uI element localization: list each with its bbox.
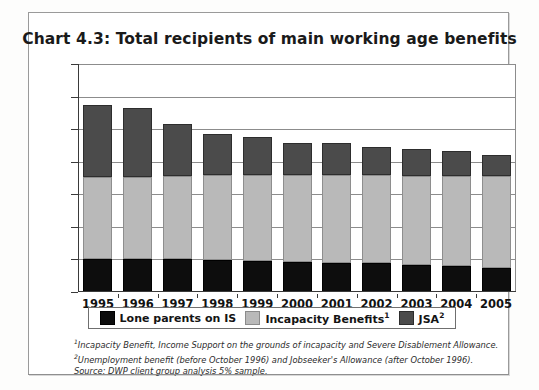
bar-segment-lone bbox=[283, 262, 312, 292]
bar-segment-lone bbox=[163, 259, 192, 292]
bar-column bbox=[442, 151, 471, 292]
bar-segment-lone bbox=[442, 266, 471, 292]
y-axis-line bbox=[78, 64, 79, 292]
footnote-1-text: Incapacity Benefit, Income Support on th… bbox=[78, 340, 498, 350]
chart-page: Chart 4.3: Total recipients of main work… bbox=[0, 0, 539, 390]
bar-segment-jsa bbox=[402, 149, 431, 176]
bar-column bbox=[123, 108, 152, 292]
legend-swatch-icon bbox=[100, 311, 115, 325]
bar-segment-incap bbox=[442, 176, 471, 266]
bottom-rule bbox=[28, 374, 509, 375]
bar-segment-lone bbox=[322, 263, 351, 292]
y-axis-tick bbox=[71, 194, 78, 195]
x-axis-tick bbox=[476, 294, 477, 298]
y-axis-tick bbox=[71, 64, 78, 65]
bar-segment-lone bbox=[362, 263, 391, 292]
legend-swatch-icon bbox=[399, 311, 414, 325]
bar-segment-jsa bbox=[442, 151, 471, 176]
x-axis-tick bbox=[158, 294, 159, 298]
y-axis-tick bbox=[71, 162, 78, 163]
bar-segment-incap bbox=[123, 177, 152, 260]
bar-segment-incap bbox=[163, 176, 192, 259]
bar-column bbox=[322, 143, 351, 292]
gridline bbox=[78, 97, 516, 98]
gridline bbox=[78, 64, 516, 65]
y-axis-tick bbox=[71, 227, 78, 228]
x-axis-tick-label: 2005 bbox=[480, 297, 512, 311]
bar-segment-jsa bbox=[362, 147, 391, 176]
y-axis-tick bbox=[71, 129, 78, 130]
y-axis-tick bbox=[71, 292, 78, 293]
bar-segment-incap bbox=[322, 175, 351, 262]
bar-segment-incap bbox=[83, 177, 112, 259]
page-title: Chart 4.3: Total recipients of main work… bbox=[0, 30, 539, 48]
bar-segment-jsa bbox=[482, 155, 511, 176]
bar-segment-lone bbox=[402, 265, 431, 292]
bar-segment-jsa bbox=[243, 137, 272, 175]
bar-segment-lone bbox=[123, 259, 152, 292]
x-axis-tick bbox=[277, 294, 278, 298]
x-axis-tick bbox=[118, 294, 119, 298]
bar-segment-jsa bbox=[163, 124, 192, 176]
legend-footnote-marker: 1 bbox=[384, 311, 389, 320]
legend-item[interactable]: Incapacity Benefits1 bbox=[245, 311, 389, 326]
legend-label: JSA2 bbox=[419, 311, 445, 326]
bar-segment-jsa bbox=[83, 105, 112, 178]
bar-segment-jsa bbox=[322, 143, 351, 176]
plot-area bbox=[78, 64, 516, 292]
legend-footnote-marker: 2 bbox=[439, 311, 444, 320]
x-axis-line bbox=[78, 291, 516, 292]
footnote-source: Source: DWP client group analysis 5% sam… bbox=[74, 366, 494, 377]
footnote-2-text: Unemployment benefit (before October 199… bbox=[78, 355, 473, 365]
bar-column bbox=[283, 143, 312, 293]
bar-column bbox=[83, 105, 112, 292]
bar-column bbox=[243, 137, 272, 292]
y-axis-tick bbox=[71, 97, 78, 98]
legend-item[interactable]: Lone parents on IS bbox=[100, 311, 237, 325]
footnote-2: 2Unemployment benefit (before October 19… bbox=[74, 351, 494, 366]
bar-segment-incap bbox=[243, 175, 272, 261]
bar-column bbox=[362, 147, 391, 292]
x-axis-tick bbox=[357, 294, 358, 298]
legend-label: Incapacity Benefits1 bbox=[265, 311, 389, 326]
bar-segment-incap bbox=[402, 176, 431, 265]
bar-segment-jsa bbox=[283, 143, 312, 176]
bar-segment-incap bbox=[362, 175, 391, 263]
x-axis-tick bbox=[397, 294, 398, 298]
legend-item[interactable]: JSA2 bbox=[399, 311, 445, 326]
chart-legend: Lone parents on ISIncapacity Benefits1JS… bbox=[88, 307, 456, 329]
bar-segment-lone bbox=[243, 261, 272, 292]
bar-column bbox=[163, 124, 192, 292]
bar-segment-jsa bbox=[203, 134, 232, 176]
plot-right-border bbox=[515, 64, 516, 292]
bar-segment-lone bbox=[83, 259, 112, 292]
x-axis-tick bbox=[317, 294, 318, 298]
bar-segment-lone bbox=[203, 260, 232, 292]
bar-segment-incap bbox=[283, 175, 312, 261]
bar-segment-jsa bbox=[123, 108, 152, 176]
legend-label: Lone parents on IS bbox=[120, 312, 237, 325]
bar-column bbox=[482, 155, 511, 292]
footnote-1: 1Incapacity Benefit, Income Support on t… bbox=[74, 336, 494, 351]
bar-segment-incap bbox=[482, 176, 511, 267]
y-axis-tick bbox=[71, 259, 78, 260]
bar-column bbox=[203, 134, 232, 292]
footnotes: 1Incapacity Benefit, Income Support on t… bbox=[74, 336, 494, 377]
bar-segment-incap bbox=[203, 175, 232, 260]
x-axis-tick bbox=[237, 294, 238, 298]
bar-column bbox=[402, 149, 431, 292]
x-axis-tick bbox=[436, 294, 437, 298]
legend-swatch-icon bbox=[245, 311, 260, 325]
x-axis-tick bbox=[197, 294, 198, 298]
bar-segment-lone bbox=[482, 268, 511, 292]
